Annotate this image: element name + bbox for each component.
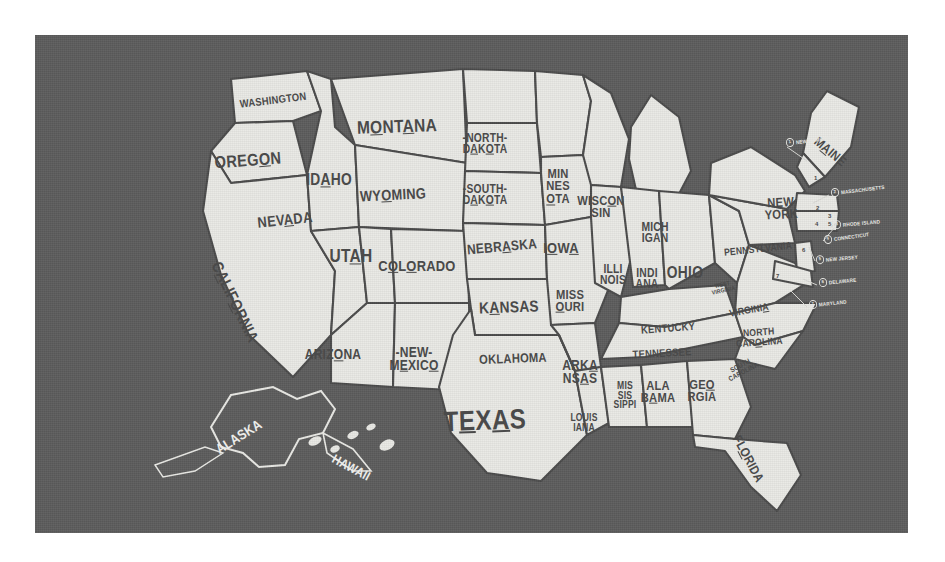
state-label-louisiana: LOUISIANA — [570, 413, 597, 432]
state-label-wyoming: WYOMING — [360, 186, 427, 204]
map-box-number-3: 3 — [828, 213, 831, 219]
state-label-south-dakota: -SOUTH-DAKOTA — [463, 184, 508, 207]
state-label-illinois: ILLINOIS — [600, 264, 626, 287]
callout-text: NEW JERSEY — [826, 253, 858, 262]
state-label-iowa: IOWA — [543, 241, 578, 255]
inset-shape-alaska — [211, 387, 335, 467]
callout-number: 6 — [819, 278, 828, 288]
state-label-montana: MONTANA — [357, 117, 438, 137]
callout-number: 1 — [785, 138, 794, 148]
state-label-utah: UTAH — [329, 248, 372, 265]
state-label-arizona: ARIZONA — [305, 348, 362, 361]
state-label-wisconsin: WISCONSIN — [577, 195, 624, 220]
callout-text: RHODE ISLAND — [843, 218, 881, 227]
callout-number: 3 — [833, 220, 842, 230]
state-label-michigan: MICHIGAN — [641, 222, 668, 245]
state-label-ohio: OHIO — [667, 265, 703, 280]
callout-number: 7 — [809, 300, 818, 310]
state-label-north-carolina: NORTHCAROLINA — [735, 326, 783, 348]
state-label-alabama: ALABAMA — [641, 380, 675, 405]
callout-number: 4 — [823, 234, 832, 244]
callout-text: DELAWARE — [829, 276, 857, 285]
map-box-number-1: 1 — [814, 175, 817, 181]
state-shape-northdakota — [463, 69, 537, 123]
state-label-idaho: IDAHO — [306, 172, 352, 187]
state-label-oregon: OREGON — [214, 151, 282, 172]
map-box-number-2: 2 — [816, 205, 819, 211]
map-poster: WASHINGTONOREGONIDAHOMONTANAWYOMINGNEVAD… — [35, 35, 908, 533]
state-label-new-york: NEWYORK — [764, 196, 798, 222]
callout-text: MARYLAND — [819, 298, 847, 307]
state-label-mississippi: MISSISSIPPI — [614, 381, 637, 410]
state-label-georgia: GEORGIA — [688, 379, 717, 404]
inset-shape-alaska-aleutians — [155, 447, 223, 477]
callout-number: 2 — [830, 188, 839, 198]
state-label-texas: TEXAS — [443, 406, 527, 435]
map-box-number-7: 7 — [776, 273, 779, 279]
state-label-indiana: INDIANA — [636, 268, 659, 291]
state-label-new-mexico: -NEW-MEXICO — [390, 346, 439, 373]
state-label-missouri: MISSOURI — [556, 289, 585, 314]
state-label-north-dakota: -NORTH-DAKOTA — [462, 133, 507, 156]
map-box-number-6: 6 — [802, 247, 805, 253]
map-box-number-5: 5 — [828, 221, 831, 227]
state-label-minnesota: MINNESOTA — [546, 168, 570, 205]
state-label-arkansas: ARKANSAS — [562, 359, 598, 386]
usa-map-graphic — [35, 35, 908, 533]
state-label-colorado: COLORADO — [378, 259, 455, 273]
map-box-number-4: 4 — [815, 221, 818, 227]
state-label-oklahoma: OKLAHOMA — [479, 352, 547, 367]
callout-number: 5 — [816, 255, 825, 265]
state-label-kansas: KANSAS — [479, 298, 539, 315]
state-shape-minnesota — [535, 71, 591, 157]
state-shape-wisconsin — [583, 75, 629, 187]
